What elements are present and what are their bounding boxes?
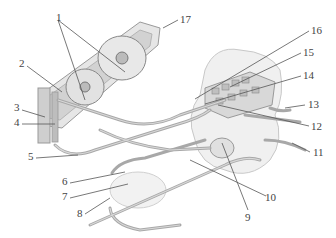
water-pump xyxy=(210,138,234,158)
cooling-system-diagram xyxy=(0,0,336,238)
callout-label-8: 8 xyxy=(77,208,83,219)
callout-label-4: 4 xyxy=(14,117,20,128)
callout-label-2: 2 xyxy=(19,58,25,69)
callout-label-5: 5 xyxy=(28,151,34,162)
callout-label-16: 16 xyxy=(311,25,322,36)
callout-label-11: 11 xyxy=(313,147,324,158)
callout-label-1: 1 xyxy=(56,12,62,23)
callout-label-13: 13 xyxy=(308,99,319,110)
callout-label-12: 12 xyxy=(311,121,322,132)
callout-label-9: 9 xyxy=(245,212,251,223)
callout-label-15: 15 xyxy=(303,47,314,58)
callout-label-3: 3 xyxy=(14,102,20,113)
callout-label-7: 7 xyxy=(62,191,68,202)
callout-label-6: 6 xyxy=(62,176,68,187)
callout-label-14: 14 xyxy=(303,70,314,81)
engine-block xyxy=(191,49,282,173)
callout-label-10: 10 xyxy=(265,192,276,203)
callout-label-17: 17 xyxy=(180,14,191,25)
